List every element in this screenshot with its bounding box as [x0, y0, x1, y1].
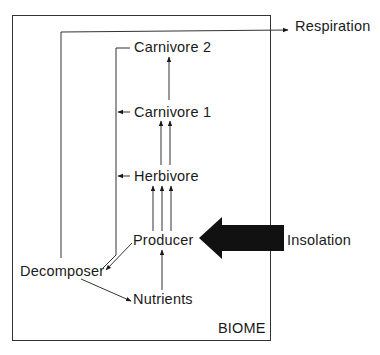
respiration-label: Respiration [295, 19, 371, 34]
biome-label: BIOME [218, 321, 266, 336]
respiration-line [61, 30, 288, 258]
node-decomposer: Decomposer [20, 264, 104, 279]
flow-producer-to-herbivore [153, 186, 171, 231]
insolation-arrow-icon [199, 217, 284, 259]
node-carnivore-2: Carnivore 2 [134, 40, 211, 55]
flow-producer-to-decomposer [106, 243, 132, 270]
flow-decomposer-to-nutrients [81, 279, 131, 301]
node-carnivore-1: Carnivore 1 [134, 105, 211, 120]
insolation-label: Insolation [287, 233, 351, 248]
node-herbivore: Herbivore [134, 169, 199, 184]
return-line [103, 48, 130, 268]
node-nutrients: Nutrients [133, 292, 193, 307]
flow-herbivore-to-carnivore1 [161, 121, 170, 165]
node-producer: Producer [133, 233, 193, 248]
